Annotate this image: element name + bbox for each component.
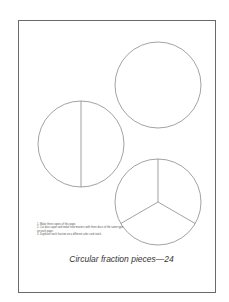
instructions-list: 1. Make three copies of this page. 2. Cu… (37, 223, 125, 236)
instruction-item: 3. Duplicate each fraction on a differen… (37, 233, 125, 236)
instruction-item: 2. Cut discs apart and make new masters … (37, 226, 125, 233)
disc-whole (115, 42, 201, 128)
page-title: Circular fraction pieces—24 (0, 254, 229, 264)
disc-thirds (115, 159, 201, 245)
disc-halves (38, 101, 124, 187)
